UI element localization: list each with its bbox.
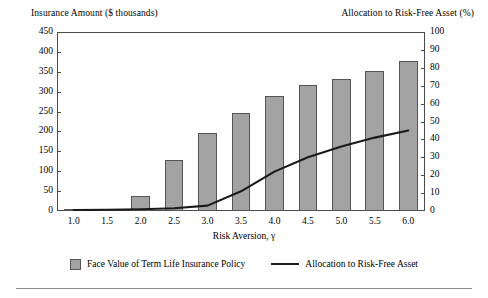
tick-mark xyxy=(57,191,61,192)
left-tick-100: 100 xyxy=(39,166,53,176)
tick-mark xyxy=(57,72,61,73)
bottom-divider xyxy=(16,288,472,289)
legend-entry-bars: Face Value of Term Life Insurance Policy xyxy=(70,259,245,270)
legend-swatch-icon xyxy=(70,259,81,270)
tick-mark xyxy=(57,151,61,152)
left-tick-250: 250 xyxy=(39,107,53,117)
tick-mark xyxy=(57,112,61,113)
right-tick-70: 70 xyxy=(430,81,440,91)
left-tick-300: 300 xyxy=(39,87,53,97)
x-tick-5.5: 5.5 xyxy=(369,216,381,226)
tick-mark xyxy=(421,175,425,176)
left-tick-0: 0 xyxy=(48,206,53,216)
chart-figure: Insurance Amount ($ thousands) Allocatio… xyxy=(0,0,488,298)
right-tick-90: 90 xyxy=(430,45,440,55)
legend-line-icon xyxy=(271,263,299,265)
legend-label-bars: Face Value of Term Life Insurance Policy xyxy=(87,259,245,269)
right-tick-60: 60 xyxy=(430,99,440,109)
x-tick-1.5: 1.5 xyxy=(101,216,113,226)
tick-mark xyxy=(421,104,425,105)
right-axis-title: Allocation to Risk-Free Asset (%) xyxy=(341,8,474,18)
line-series-svg xyxy=(57,32,425,211)
tick-mark xyxy=(421,157,425,158)
left-tick-350: 350 xyxy=(39,67,53,77)
left-axis-ticks: 050100150200250300350400450 xyxy=(0,32,53,211)
x-tick-4.0: 4.0 xyxy=(269,216,281,226)
right-tick-10: 10 xyxy=(430,188,440,198)
x-tick-4.5: 4.5 xyxy=(302,216,314,226)
left-tick-200: 200 xyxy=(39,127,53,137)
right-tick-80: 80 xyxy=(430,63,440,73)
tick-mark xyxy=(421,50,425,51)
x-tick-3.0: 3.0 xyxy=(202,216,214,226)
line-series xyxy=(57,32,425,211)
x-tick-6.0: 6.0 xyxy=(402,216,414,226)
right-tick-20: 20 xyxy=(430,170,440,180)
x-axis-title: Risk Aversion, γ xyxy=(0,231,488,241)
tick-mark xyxy=(57,52,61,53)
left-tick-150: 150 xyxy=(39,147,53,157)
left-tick-450: 450 xyxy=(39,27,53,37)
tick-mark xyxy=(421,139,425,140)
tick-mark xyxy=(57,171,61,172)
right-tick-0: 0 xyxy=(430,206,435,216)
tick-mark xyxy=(57,131,61,132)
left-tick-400: 400 xyxy=(39,47,53,57)
legend-entry-line: Allocation to Risk-Free Asset xyxy=(271,259,418,269)
tick-mark xyxy=(421,193,425,194)
right-tick-40: 40 xyxy=(430,135,440,145)
x-tick-2.5: 2.5 xyxy=(168,216,180,226)
risk-free-allocation-line xyxy=(74,130,409,210)
chart-legend: Face Value of Term Life Insurance Policy… xyxy=(0,256,488,272)
right-tick-50: 50 xyxy=(430,117,440,127)
x-tick-3.5: 3.5 xyxy=(235,216,247,226)
right-tick-100: 100 xyxy=(430,27,444,37)
x-axis-ticks: 1.01.52.02.53.03.54.04.55.05.56.0 xyxy=(57,216,425,230)
x-tick-1.0: 1.0 xyxy=(68,216,80,226)
legend-label-line: Allocation to Risk-Free Asset xyxy=(305,259,418,269)
x-tick-5.0: 5.0 xyxy=(335,216,347,226)
right-tick-30: 30 xyxy=(430,153,440,163)
right-axis-ticks: 0102030405060708090100 xyxy=(430,32,480,211)
x-tick-2.0: 2.0 xyxy=(135,216,147,226)
left-axis-title: Insurance Amount ($ thousands) xyxy=(31,8,158,18)
tick-mark xyxy=(421,122,425,123)
tick-mark xyxy=(57,92,61,93)
tick-mark xyxy=(421,86,425,87)
left-tick-50: 50 xyxy=(44,186,54,196)
tick-mark xyxy=(421,68,425,69)
